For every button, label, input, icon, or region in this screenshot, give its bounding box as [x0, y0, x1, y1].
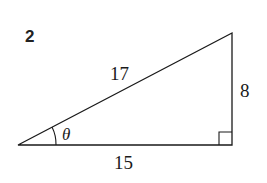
hypotenuse-label: 17: [110, 63, 129, 84]
angle-arc: [52, 127, 56, 145]
triangle-diagram: 2 17 8 15 θ: [0, 0, 267, 183]
right-angle-marker: [219, 132, 232, 145]
right-triangle: [18, 33, 232, 145]
angle-theta-label: θ: [62, 125, 70, 144]
adjacent-side-label: 15: [114, 152, 133, 173]
opposite-side-label: 8: [240, 80, 250, 101]
problem-number: 2: [25, 27, 34, 46]
